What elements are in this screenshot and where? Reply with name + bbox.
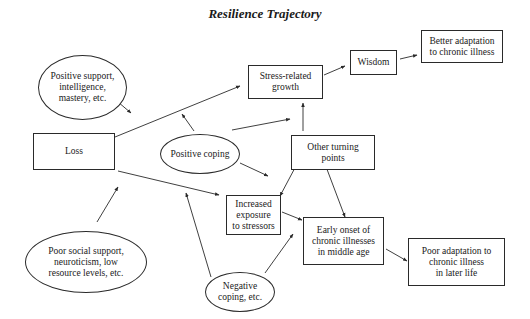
arrow-loss-to-growth: [115, 86, 240, 137]
arrow-coping-to-turning-path: [240, 163, 268, 176]
node-positive-support: Positive support, intelligence, mastery,…: [38, 55, 127, 120]
arrow-negcoping-to-early-path: [265, 234, 293, 273]
arrow-negcoping-to-path: [186, 193, 211, 277]
node-better-adaptation: Better adaptation to chronic illness: [421, 30, 503, 63]
node-loss: Loss: [33, 133, 115, 170]
arrow-exposure-to-early: [282, 212, 302, 220]
arrow-poor-support-to-path: [97, 187, 118, 222]
arrow-early-to-poor: [386, 249, 407, 261]
arrow-turning-early: [325, 164, 345, 217]
arrow-loss-to-exposure: [118, 171, 219, 195]
node-stress-related-growth: Stress-related growth: [248, 65, 323, 99]
node-early-onset: Early onset of chronic illnesses in midd…: [303, 217, 384, 265]
node-negative-coping: Negative coping, etc.: [205, 272, 275, 312]
node-wisdom: Wisdom: [350, 50, 397, 75]
node-increased-exposure: Increased exposure to stressors: [226, 195, 281, 235]
arrow-coping-to-growth: [232, 119, 290, 130]
node-poor-social-support: Poor social support, neuroticism, low re…: [25, 231, 147, 293]
node-poor-adaptation: Poor adaptation to chronic illness in la…: [408, 238, 505, 286]
arrow-coping-to-path: [182, 114, 194, 131]
node-positive-coping: Positive coping: [160, 134, 240, 174]
arrow-wisdom-to-better: [400, 55, 417, 59]
arrow-growth-to-wisdom: [324, 66, 345, 75]
node-other-turning-points: Other turning points: [291, 135, 375, 170]
